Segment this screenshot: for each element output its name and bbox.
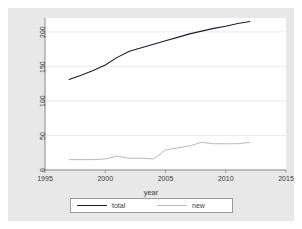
legend-label-new: new [192, 199, 205, 212]
data-series-group [69, 21, 250, 159]
legend-entry-new[interactable]: new [157, 199, 205, 212]
series-line-total [69, 21, 250, 79]
y-tick-label: 50 [39, 132, 46, 140]
gridlines [45, 32, 286, 170]
x-tick-label: 2010 [210, 175, 242, 182]
chart-figure: 050100150200 19952000200520102015 year t… [8, 8, 294, 221]
chart-legend: totalnew [70, 198, 233, 213]
x-tick-label: 2000 [89, 175, 121, 182]
legend-swatch-total [77, 205, 107, 206]
y-tick-label: 200 [39, 26, 46, 38]
legend-swatch-new [157, 205, 187, 206]
x-tick-label: 2015 [270, 175, 302, 182]
legend-entry-total[interactable]: total [77, 199, 125, 212]
y-tick-label: 150 [39, 61, 46, 73]
legend-label-total: total [112, 199, 125, 212]
y-tick-label: 100 [39, 96, 46, 108]
x-tick-label: 2005 [150, 175, 182, 182]
x-tick-label: 1995 [29, 175, 61, 182]
y-tick-label: 0 [39, 168, 46, 172]
series-line-new [69, 142, 250, 159]
x-axis-title: year [8, 188, 294, 197]
